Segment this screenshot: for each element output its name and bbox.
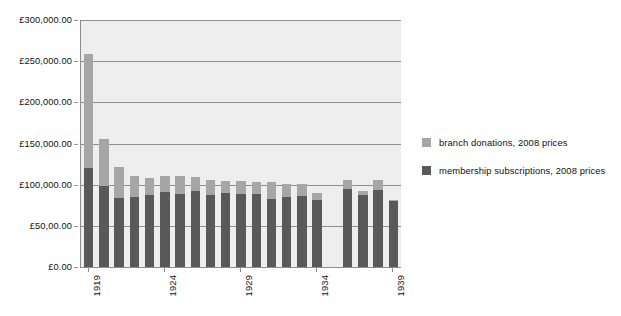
y-axis-tick-label: £100,000.00 [19,180,72,190]
bar-segment-branch-donations[interactable] [252,182,261,194]
bar-segment-membership-subscriptions[interactable] [236,194,245,267]
bar-group[interactable] [175,176,184,267]
y-axis-tick-mark [74,61,78,62]
bar-segment-branch-donations[interactable] [84,54,93,168]
bar-segment-membership-subscriptions[interactable] [282,197,291,267]
x-axis-tick-label: 1939 [396,275,406,296]
bar-group[interactable] [99,139,108,267]
bar-group[interactable] [206,180,215,267]
chart-figure: £300,000.00£250,000.00£200,000.00£150,00… [0,0,621,316]
y-axis-tick-mark [74,144,78,145]
bar-segment-membership-subscriptions[interactable] [343,189,352,267]
bar-segment-branch-donations[interactable] [282,184,291,197]
x-axis-tick-label: 1919 [92,275,102,296]
y-axis-tick-mark [74,185,78,186]
bar-segment-branch-donations[interactable] [114,167,123,198]
bar-segment-branch-donations[interactable] [267,182,276,198]
bar-segment-branch-donations[interactable] [206,180,215,195]
bar-segment-membership-subscriptions[interactable] [114,198,123,267]
bar-segment-branch-donations[interactable] [297,184,306,196]
legend-label: branch donations, 2008 prices [439,137,568,148]
bar-segment-branch-donations[interactable] [160,176,169,192]
bar-segment-branch-donations[interactable] [99,139,108,186]
bar-segment-branch-donations[interactable] [236,181,245,194]
x-axis-tick-label: 1934 [320,275,330,296]
bar-group[interactable] [145,178,154,267]
legend-label: membership subscriptions, 2008 prices [439,165,605,176]
bar-segment-membership-subscriptions[interactable] [373,190,382,267]
bar-segment-membership-subscriptions[interactable] [206,195,215,267]
bar-segment-branch-donations[interactable] [343,180,352,189]
x-axis-tick-label: 1924 [168,275,178,296]
x-axis-tick-mark [316,268,317,272]
bar-segment-membership-subscriptions[interactable] [160,192,169,267]
bar-segment-membership-subscriptions[interactable] [99,186,108,268]
bar-group[interactable] [282,184,291,267]
bar-segment-membership-subscriptions[interactable] [267,199,276,267]
bar-group[interactable] [389,200,398,268]
bar-group[interactable] [252,182,261,267]
bar-segment-membership-subscriptions[interactable] [84,168,93,267]
bar-segment-membership-subscriptions[interactable] [297,196,306,267]
y-axis-tick-mark [74,267,78,268]
bar-group[interactable] [236,181,245,267]
bar-group[interactable] [343,180,352,267]
bar-segment-membership-subscriptions[interactable] [145,195,154,267]
y-axis-tick-mark [74,102,78,103]
bar-group[interactable] [130,176,139,267]
bar-segment-membership-subscriptions[interactable] [221,193,230,267]
bar-segment-membership-subscriptions[interactable] [389,201,398,267]
bar-segment-membership-subscriptions[interactable] [130,197,139,267]
y-axis-tick-mark [74,20,78,21]
x-axis-tick-mark [164,268,165,272]
bar-group[interactable] [312,193,321,267]
bar-segment-membership-subscriptions[interactable] [358,195,367,267]
legend-swatch-icon [422,138,431,147]
bar-group[interactable] [114,167,123,267]
bar-segment-membership-subscriptions[interactable] [175,194,184,267]
bar-segment-branch-donations[interactable] [130,176,139,197]
bar-segment-membership-subscriptions[interactable] [252,194,261,267]
y-axis-tick-label: £0.00 [48,262,72,272]
bar-segment-branch-donations[interactable] [373,180,382,190]
bar-segment-branch-donations[interactable] [312,193,321,200]
bar-group[interactable] [191,177,200,267]
chart-legend: branch donations, 2008 pricesmembership … [422,137,617,193]
y-axis: £300,000.00£250,000.00£200,000.00£150,00… [0,0,78,280]
legend-entry[interactable]: membership subscriptions, 2008 prices [422,165,617,176]
bar-segment-membership-subscriptions[interactable] [312,200,321,268]
bar-segment-branch-donations[interactable] [221,181,230,193]
x-axis-tick-mark [392,268,393,272]
bar-group[interactable] [358,191,367,267]
bar-segment-branch-donations[interactable] [191,177,200,191]
y-axis-tick-mark [74,226,78,227]
x-axis: 19191924192919341939 [80,268,401,316]
bar-group[interactable] [297,184,306,267]
bar-segment-membership-subscriptions[interactable] [191,191,200,267]
bar-segment-branch-donations[interactable] [145,178,154,194]
legend-entry[interactable]: branch donations, 2008 prices [422,137,617,148]
plot-area [80,20,401,268]
x-axis-tick-mark [240,268,241,272]
y-axis-tick-label: £250,000.00 [19,56,72,66]
legend-swatch-icon [422,166,431,175]
x-axis-tick-mark [88,268,89,272]
x-axis-tick-label: 1929 [244,275,254,296]
y-axis-tick-label: £300,000.00 [19,15,72,25]
y-axis-tick-label: £200,000.00 [19,97,72,107]
y-axis-tick-label: £50,00.00 [30,221,72,231]
bars-layer [81,20,401,267]
bar-group[interactable] [373,180,382,267]
bar-group[interactable] [84,54,93,267]
bar-group[interactable] [160,176,169,267]
bar-segment-branch-donations[interactable] [175,176,184,194]
bar-group[interactable] [221,181,230,267]
y-axis-tick-label: £150,000.00 [19,139,72,149]
bar-group[interactable] [267,182,276,267]
bar-segment-branch-donations[interactable] [358,191,367,194]
bar-segment-branch-donations[interactable] [389,200,398,202]
